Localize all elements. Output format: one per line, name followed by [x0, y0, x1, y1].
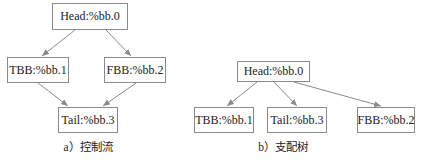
- node-label: Tail:%bb.3: [62, 113, 115, 128]
- node-label: TBB:%bb.1: [9, 63, 67, 78]
- cfg-node-head: Head:%bb.0: [52, 3, 128, 30]
- domtree-node-fbb: FBB:%bb.2: [357, 107, 415, 133]
- edge-head-to-fbb-a: [106, 30, 131, 56]
- cfg-node-tbb: TBB:%bb.1: [7, 57, 69, 83]
- node-label: FBB:%bb.2: [106, 63, 163, 78]
- edge-head-to-fbb-b: [294, 82, 381, 106]
- edge-fbb-to-tail-a: [103, 83, 136, 106]
- node-label: FBB:%bb.2: [358, 113, 415, 128]
- domtree-node-tbb: TBB:%bb.1: [194, 107, 254, 133]
- edge-head-to-tbb-a: [42, 30, 75, 56]
- caption-control-flow: a）控制流: [63, 138, 112, 154]
- node-label: Head:%bb.0: [60, 9, 120, 24]
- node-label: Head:%bb.0: [244, 64, 304, 79]
- node-label: TBB:%bb.1: [195, 113, 253, 128]
- edge-head-to-tbb-b: [227, 82, 257, 106]
- cfg-node-tail: Tail:%bb.3: [58, 107, 118, 133]
- caption-dominator-tree: b）支配树: [258, 138, 308, 154]
- edge-head-to-tail-b: [274, 82, 297, 106]
- domtree-node-head: Head:%bb.0: [237, 61, 310, 82]
- node-label: Tail:%bb.3: [271, 113, 324, 128]
- domtree-node-tail: Tail:%bb.3: [267, 107, 327, 133]
- cfg-node-fbb: FBB:%bb.2: [104, 57, 166, 83]
- edge-tbb-to-tail-a: [38, 83, 68, 106]
